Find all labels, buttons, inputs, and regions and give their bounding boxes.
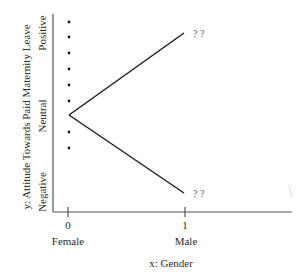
x-tick-label-1: 1	[182, 219, 188, 231]
y-axis-title: y: Attitude Towards Paid Maternity Leave	[20, 24, 32, 209]
level-negative-label: Negative	[36, 172, 48, 212]
dot	[68, 84, 71, 87]
scan-artifact	[289, 185, 292, 198]
x-tick-label-0: 0	[65, 219, 71, 231]
level-neutral-label: Neutral	[36, 100, 48, 133]
female-attitude-dots	[68, 21, 71, 150]
dot	[68, 36, 71, 39]
x-axis-title: x: Gender	[149, 257, 193, 269]
category-male: Male	[175, 235, 198, 247]
dot	[68, 131, 71, 134]
dot	[68, 21, 71, 24]
upper-branch-line	[69, 33, 184, 115]
upper-question-annotation: ? ?	[193, 28, 205, 39]
lower-branch-line	[69, 115, 184, 193]
gender-attitude-diagram: 0 1 Female Male x: Gender y: Attitude To…	[0, 0, 307, 272]
level-positive-label: Positive	[36, 15, 48, 51]
dot	[68, 68, 71, 71]
dot	[68, 100, 71, 103]
dot	[68, 147, 71, 150]
lower-question-annotation: ? ?	[193, 188, 205, 199]
category-female: Female	[52, 235, 84, 247]
dot	[68, 52, 71, 55]
